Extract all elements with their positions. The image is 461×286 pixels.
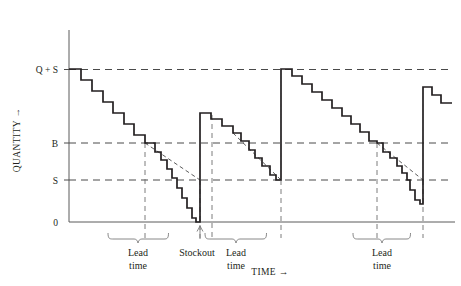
- lead-time-2-label-line2: time: [227, 260, 245, 271]
- brace-lead-time-1: [108, 233, 169, 243]
- stockout-label: Stockout: [179, 247, 215, 258]
- x-axis-title: TIME →: [251, 267, 289, 277]
- lead-time-3-label-line1: Lead: [372, 247, 392, 258]
- y-tick-label-s: S: [53, 176, 58, 186]
- y-tick-label-q-plus-s: Q + S: [36, 65, 58, 75]
- stockout-arrow-icon: [197, 226, 203, 239]
- lead-time-1-label-line2: time: [129, 260, 147, 271]
- y-axis-title: QUANTITY →: [12, 108, 22, 173]
- brace-lead-time-3: [353, 233, 411, 243]
- lead-time-1-label-line1: Lead: [128, 247, 148, 258]
- lead-time-2-label-line1: Lead: [226, 247, 246, 258]
- inventory-level-staircase: [69, 69, 452, 222]
- lead-time-projection-3: [377, 143, 423, 180]
- y-tick-label-b: B: [52, 139, 58, 149]
- inventory-sawtooth-chart: Q + S B S 0 QUANTITY → TIME → Lead time …: [0, 0, 461, 286]
- y-tick-label-zero: 0: [53, 218, 58, 228]
- chart-canvas: Q + S B S 0 QUANTITY → TIME → Lead time …: [0, 0, 461, 286]
- brace-lead-time-2: [205, 233, 267, 243]
- lead-time-3-label-line2: time: [373, 260, 391, 271]
